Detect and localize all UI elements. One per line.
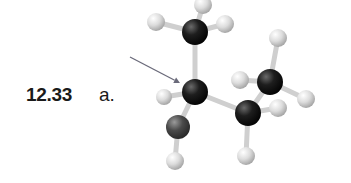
hydrogen-atom-H7: [156, 89, 172, 105]
hydrogen-atom-H10: [237, 147, 255, 165]
hydrogen-atom-H8: [269, 99, 287, 117]
hydrogen-atom-H5: [231, 71, 249, 89]
hydrogen-atom-H1: [194, 0, 212, 14]
hydrogen-atom-H3: [216, 15, 234, 33]
hydrogen-atom-H2: [147, 13, 165, 31]
arrow-pointer: [130, 57, 175, 80]
oxygen-atom-O: [166, 115, 190, 139]
hydrogen-atom-H6: [297, 90, 315, 108]
hydrogen-atom-H9: [166, 152, 184, 170]
molecule-model: [0, 0, 351, 183]
hydrogen-atom-H4: [269, 29, 287, 47]
carbon-atom-C3: [235, 100, 261, 126]
carbon-atom-C4: [257, 69, 283, 95]
carbon-atom-C1: [182, 19, 208, 45]
carbon-atom-C2: [182, 79, 208, 105]
